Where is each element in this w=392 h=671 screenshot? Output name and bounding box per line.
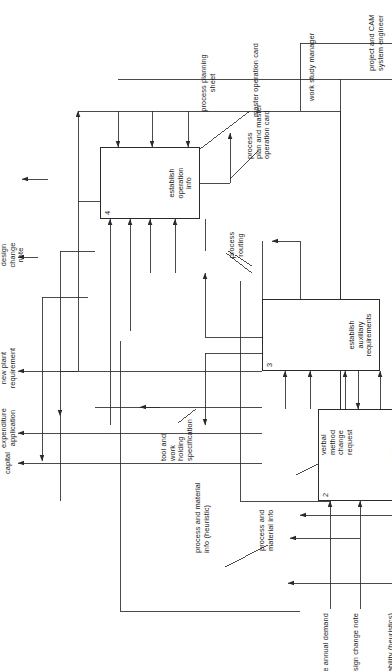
flow-label-verbal-method-change-request: verbal method change request [320, 399, 354, 455]
flow-label-process-routing: process routing [228, 217, 245, 273]
process-3-label: establish auxiliary requirements [348, 300, 374, 370]
diagram-rotation-wrapper: 1 analyse component 2 derive manufacturi… [0, 0, 392, 671]
output-label-design-change-note: design change note [0, 229, 26, 281]
diagram-canvas: 1 analyse component 2 derive manufacturi… [0, 0, 392, 671]
process-box-4[interactable]: 4 establish operation info [100, 147, 200, 219]
flow-label-process-and-material-info-heuristic: process and material info (heuristic) [194, 437, 211, 553]
flow-label-tool-and-work-holding-specification: tool and work holding specification [160, 389, 194, 461]
process-3-number: 3 [265, 363, 274, 367]
input-label-plant-availability-heuristics: plant availability (heuristics) [387, 613, 392, 671]
flow-label-master-operation-card: master operation card [252, 0, 261, 117]
input-label-aggregate-annual-demand: aggregate annual demand [322, 613, 331, 671]
output-label-new-plant-requirement: new plant requirement [0, 337, 17, 399]
actor-label-work-study-manager: work study manager [308, 0, 317, 101]
output-label-expenditure-application: expenditure application [0, 397, 17, 459]
flow-label-process-planning-sheet: process planning sheet [200, 35, 217, 131]
flow-label-process-and-material-info: process and material info [258, 481, 275, 551]
input-label-design-change-note: design change note [352, 613, 361, 671]
process-4-label: establish operation info [168, 148, 194, 218]
process-4-number: 4 [103, 211, 112, 215]
actor-label-project-and-cam-system-engineer: project and CAM system engineer [368, 0, 385, 71]
process-box-3[interactable]: 3 establish auxiliary requirements [262, 299, 380, 371]
process-2-number: 2 [321, 493, 330, 497]
